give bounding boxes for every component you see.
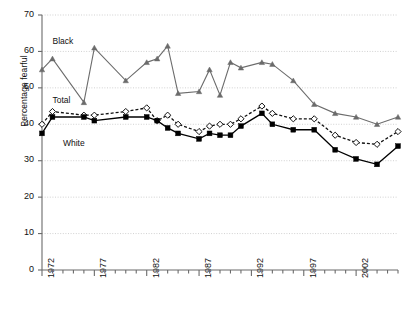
data-point <box>353 139 359 145</box>
data-point <box>239 124 244 129</box>
data-point <box>238 116 244 122</box>
data-point <box>50 56 55 61</box>
data-point <box>333 147 338 152</box>
data-point <box>81 115 86 120</box>
data-point <box>92 118 97 123</box>
chart-container: Percentage fearful 010203040506070 19721… <box>0 0 411 309</box>
series-total <box>39 103 401 147</box>
data-point <box>92 45 97 50</box>
data-point <box>218 133 223 138</box>
data-point <box>165 43 170 48</box>
series-white <box>40 111 401 167</box>
data-point <box>270 122 275 127</box>
data-point <box>311 116 317 122</box>
data-point <box>375 162 380 167</box>
data-point <box>374 141 380 147</box>
data-point <box>227 121 233 127</box>
data-point <box>217 121 223 127</box>
data-point <box>123 115 128 120</box>
data-point <box>207 67 212 72</box>
data-point <box>217 93 222 98</box>
data-point <box>290 116 296 122</box>
data-point <box>291 127 296 132</box>
data-point <box>228 60 233 65</box>
data-point <box>207 131 212 136</box>
data-point <box>50 115 55 120</box>
data-point <box>39 121 45 127</box>
data-point <box>269 110 275 116</box>
data-point <box>259 111 264 116</box>
data-point <box>197 136 202 141</box>
data-point <box>332 132 338 138</box>
data-point <box>40 131 45 136</box>
data-point <box>155 118 160 123</box>
data-point <box>395 114 400 119</box>
data-point <box>196 128 202 134</box>
data-point <box>49 108 55 114</box>
data-point <box>144 115 149 120</box>
data-point <box>176 131 181 136</box>
data-point <box>312 127 317 132</box>
data-point <box>228 133 233 138</box>
data-point <box>144 105 150 111</box>
data-point <box>395 128 401 134</box>
plot-area <box>0 0 411 309</box>
data-point <box>259 103 265 109</box>
data-point <box>354 156 359 161</box>
data-point <box>396 144 401 149</box>
data-point <box>165 126 170 131</box>
data-point <box>123 108 129 114</box>
data-point <box>91 112 97 118</box>
